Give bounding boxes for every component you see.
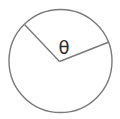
sector-diagram: θ bbox=[0, 0, 120, 119]
radius-line-left bbox=[25, 25, 60, 62]
angle-label-theta: θ bbox=[58, 37, 69, 58]
